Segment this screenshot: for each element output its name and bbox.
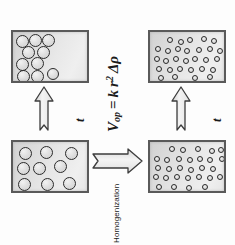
homogenization-label: Homogenization (112, 184, 121, 243)
droplet (187, 37, 194, 44)
droplet (174, 174, 181, 181)
droplet (156, 184, 163, 191)
droplet (186, 185, 193, 192)
creaming-velocity-formula: Vop=kr2Δρ (104, 56, 122, 132)
droplet (210, 166, 217, 173)
droplet (16, 58, 29, 71)
formula-constant: k (105, 90, 121, 98)
droplet (217, 48, 224, 55)
droplet (178, 39, 185, 46)
droplet (203, 57, 210, 64)
droplet (211, 38, 218, 45)
droplet (214, 56, 221, 63)
droplet (54, 160, 67, 173)
droplet (41, 178, 54, 191)
droplet (29, 34, 42, 47)
droplet (195, 146, 202, 153)
droplet (171, 184, 178, 191)
droplet (154, 156, 161, 163)
droplet (166, 166, 173, 173)
panel-coarse-emulsion-creamed (11, 30, 89, 83)
droplet (192, 56, 199, 63)
droplet (47, 68, 59, 80)
droplet (188, 167, 195, 174)
droplet (31, 70, 44, 83)
droplet (177, 66, 184, 73)
droplet (197, 156, 204, 163)
time-arrow-left (33, 86, 55, 136)
droplet (187, 157, 194, 164)
time-arrow-right (170, 86, 192, 136)
panel-coarse-emulsion-dispersed (11, 140, 89, 193)
droplet (158, 75, 165, 82)
droplet (33, 162, 46, 175)
droplet (163, 58, 170, 65)
droplet (22, 46, 35, 59)
droplet (218, 147, 224, 153)
panel-fine-emulsion-stable (148, 30, 226, 83)
formula-delta-rho: Δρ (105, 56, 121, 73)
droplet (207, 74, 214, 81)
droplet (169, 146, 176, 153)
droplet (167, 67, 174, 74)
droplet (199, 66, 206, 73)
droplet (17, 70, 30, 83)
droplet (154, 56, 161, 63)
formula-exponent: 2 (104, 76, 115, 81)
droplet (18, 178, 31, 191)
droplet (192, 75, 199, 82)
time-label-left: t (72, 118, 88, 122)
formula-subscript: op (111, 112, 122, 122)
droplet (183, 58, 190, 65)
droplet (40, 146, 53, 159)
droplet (63, 177, 76, 190)
droplet (217, 174, 223, 180)
droplet (173, 56, 180, 63)
droplet (164, 157, 171, 164)
droplet (165, 48, 172, 55)
formula-variable: V (105, 122, 121, 132)
figure-canvas: t t Homogenization Vop=kr2Δρ (0, 0, 235, 245)
droplet (65, 147, 78, 160)
droplet (156, 66, 163, 73)
droplet (207, 175, 214, 182)
droplet (163, 175, 170, 182)
time-label-right: t (209, 118, 225, 122)
formula-radius: r (105, 81, 121, 87)
droplet (155, 46, 162, 53)
droplet (188, 67, 195, 74)
droplet (207, 157, 214, 164)
droplet (172, 74, 179, 81)
droplet (42, 34, 55, 47)
homogenization-arrow (92, 148, 144, 174)
droplet (219, 156, 225, 162)
droplet (177, 165, 184, 172)
droplet (210, 67, 217, 74)
droplet (202, 184, 209, 191)
droplet (209, 148, 216, 155)
droplet (17, 162, 30, 175)
droplet (180, 147, 187, 154)
droplet (19, 147, 32, 160)
panel-fine-emulsion-homogenized (148, 140, 226, 193)
droplet (175, 46, 182, 53)
droplet (196, 174, 203, 181)
droplet (153, 174, 160, 181)
droplet (207, 46, 214, 53)
droplet (167, 37, 174, 44)
droplet (176, 156, 183, 163)
droplet (185, 175, 192, 182)
droplet (31, 57, 44, 70)
formula-equals: = (105, 100, 121, 109)
droplet (201, 36, 208, 43)
droplet (199, 165, 206, 172)
droplet (155, 165, 162, 172)
droplet (184, 48, 191, 55)
droplet (196, 47, 203, 54)
